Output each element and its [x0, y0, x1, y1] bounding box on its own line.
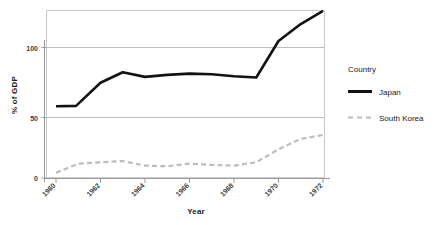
series-line-south-korea: [56, 135, 323, 173]
y-tick-label-50: 50: [30, 115, 38, 122]
legend-title: Country: [348, 65, 376, 74]
x-tick-label-1970: 1970: [263, 182, 279, 198]
x-tick-label-1962: 1962: [85, 182, 101, 198]
y-axis-title: % of GDP: [10, 76, 19, 115]
x-axis-title: Year: [187, 207, 205, 216]
x-tick-label-1972: 1972: [308, 182, 324, 198]
legend-entry-japan[interactable]: Japan: [348, 88, 401, 97]
y-axis: 100 50 0: [26, 40, 46, 182]
x-axis: 1960 1962 1964 1966 1968 1970 1972: [41, 179, 330, 198]
gridlines: [47, 48, 324, 179]
legend-entry-south-korea[interactable]: South Korea: [348, 114, 424, 123]
series-line-japan: [56, 11, 323, 106]
legend: Country Japan South Korea: [348, 65, 424, 123]
x-tick-label-1960: 1960: [41, 182, 57, 198]
x-tick-label-1968: 1968: [219, 182, 235, 198]
x-tick-label-1966: 1966: [174, 182, 190, 198]
x-tick-label-1964: 1964: [130, 182, 146, 198]
legend-label-japan: Japan: [379, 88, 401, 97]
chart-figure: 100 50 0 % of GDP 1960 1962 1964 1966 19…: [0, 0, 435, 225]
y-tick-label-100: 100: [26, 45, 38, 52]
line-chart-svg: 100 50 0 % of GDP 1960 1962 1964 1966 19…: [0, 0, 435, 225]
y-tick-label-0: 0: [34, 175, 38, 182]
legend-label-south-korea: South Korea: [379, 114, 424, 123]
